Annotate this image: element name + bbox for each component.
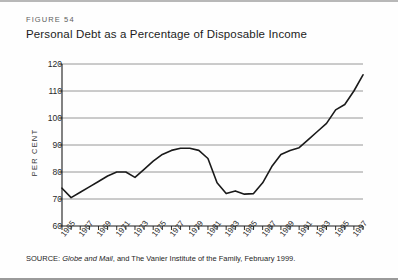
y-axis-tick-label: 100 bbox=[36, 113, 62, 123]
y-axis-tick-label: 120 bbox=[36, 59, 62, 69]
y-axis-tick-label: 60 bbox=[36, 221, 62, 231]
figure-card: FIGURE 54 Personal Debt as a Percentage … bbox=[0, 0, 398, 280]
y-axis-tick-label: 70 bbox=[36, 194, 62, 204]
y-axis-tick-labels: 12011010090807060 bbox=[36, 2, 62, 280]
source-note: SOURCE: Globe and Mail, and The Vanier I… bbox=[26, 254, 295, 263]
y-axis-tick-label: 110 bbox=[36, 86, 62, 96]
y-axis-tick-label: 90 bbox=[36, 140, 62, 150]
y-axis-tick-label: 80 bbox=[36, 167, 62, 177]
chart-plot-area: PER CENT 12011010090807060 1965196719691… bbox=[0, 2, 398, 280]
source-prefix: SOURCE: bbox=[26, 254, 60, 263]
source-rest: , and The Vanier Institute of the Family… bbox=[113, 254, 296, 263]
data-series-line bbox=[62, 75, 363, 198]
source-publication: Globe and Mail bbox=[62, 254, 112, 263]
